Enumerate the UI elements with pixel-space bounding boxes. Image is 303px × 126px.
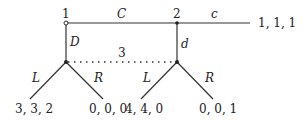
payoff-D-R: 0, 0, 0 [89, 102, 127, 116]
action-L-right: L [142, 71, 151, 85]
action-R-left: R [93, 71, 103, 85]
player2-node-icon [175, 21, 179, 25]
player2-label: 2 [173, 7, 181, 21]
action-C: C [117, 7, 126, 21]
player3-node-left-icon [64, 60, 68, 64]
action-d: d [181, 37, 189, 51]
player3-node-right-icon [175, 60, 179, 64]
payoff-C-d-L: 4, 4, 0 [125, 102, 163, 116]
player3-label: 3 [118, 46, 126, 60]
action-c: c [211, 7, 218, 21]
root-node-icon [64, 21, 68, 25]
player1-label: 1 [62, 7, 70, 21]
action-L-left: L [31, 71, 40, 85]
action-D: D [69, 35, 80, 49]
payoff-D-L: 3, 3, 2 [15, 102, 53, 116]
game-tree: 1 2 3 C c D d L R L R 1, 1, 1 3, 3, 2 0,… [0, 0, 303, 126]
payoff-C-d-R: 0, 0, 1 [199, 102, 237, 116]
payoff-C-c: 1, 1, 1 [258, 16, 296, 30]
action-R-right: R [204, 71, 214, 85]
